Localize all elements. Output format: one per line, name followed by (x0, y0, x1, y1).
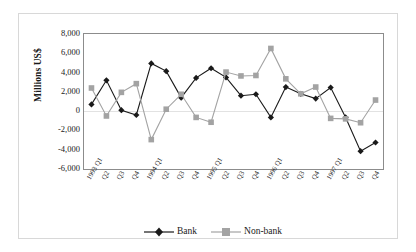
data-point-marker (372, 139, 378, 145)
plot-area (83, 33, 384, 170)
data-point-marker (268, 46, 274, 52)
data-point-marker (223, 69, 229, 75)
data-point-marker (163, 68, 169, 74)
data-point-marker (283, 76, 289, 82)
y-tick-label: 0 (40, 106, 80, 115)
data-point-marker (193, 115, 199, 121)
legend-label-bank: Bank (177, 227, 197, 237)
legend-swatch-non-bank (211, 226, 241, 238)
y-tick-label: 4,000 (40, 68, 80, 77)
series-line-bank (91, 63, 375, 151)
data-point-marker (133, 112, 139, 118)
y-axis-tick-labels: 8,0006,0004,0002,0000-2,000-4,000-6,000 (38, 0, 80, 252)
data-point-marker (118, 107, 124, 113)
series-line-non-bank (91, 48, 375, 139)
data-point-marker (119, 90, 125, 96)
data-point-marker (268, 114, 274, 120)
chart-legend: Bank Non-bank (118, 224, 308, 240)
legend-label-non-bank: Non-bank (244, 227, 282, 237)
legend-swatch-bank (144, 226, 174, 238)
y-tick-label: -4,000 (40, 145, 80, 154)
chart-figure: Millions US$ 8,0006,0004,0002,0000-2,000… (0, 0, 416, 252)
data-point-marker (163, 106, 169, 112)
y-tick-label: 6,000 (40, 48, 80, 57)
data-point-marker (103, 77, 109, 83)
data-point-marker (313, 84, 319, 90)
y-tick-label: -6,000 (40, 164, 80, 173)
data-point-marker (357, 148, 363, 154)
data-point-marker (253, 73, 259, 79)
data-point-marker (134, 81, 140, 87)
data-point-marker (328, 116, 334, 122)
y-tick-label: -2,000 (40, 125, 80, 134)
y-tick-label: 2,000 (40, 87, 80, 96)
data-point-marker (148, 137, 154, 143)
data-point-marker (104, 113, 110, 119)
data-point-marker (343, 116, 349, 122)
data-point-marker (253, 91, 259, 97)
data-point-marker (238, 73, 244, 79)
data-point-marker (208, 65, 214, 71)
legend-item-bank: Bank (144, 226, 197, 238)
data-point-marker (178, 91, 184, 97)
data-point-marker (358, 120, 364, 126)
legend-item-non-bank: Non-bank (211, 226, 282, 238)
data-point-marker (88, 101, 94, 107)
data-point-marker (298, 91, 304, 97)
series-plot (84, 34, 383, 169)
data-point-marker (208, 119, 214, 125)
y-tick-label: 8,000 (40, 29, 80, 38)
data-point-marker (148, 60, 154, 66)
data-point-marker (373, 97, 379, 103)
data-point-marker (283, 84, 289, 90)
data-point-marker (89, 85, 95, 91)
